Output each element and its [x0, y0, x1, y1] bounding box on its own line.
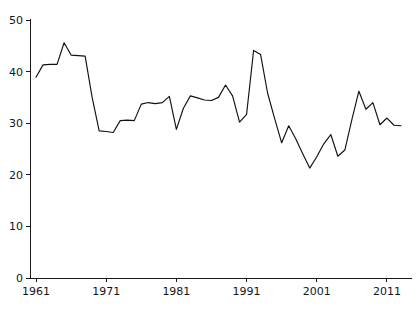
- data-series-group: [36, 43, 401, 168]
- axes-group: [30, 19, 412, 278]
- y-tick-label-50: 50: [9, 14, 23, 27]
- x-tick-label-1991: 1991: [233, 285, 261, 298]
- x-tick-label-2001: 2001: [303, 285, 331, 298]
- y-tick-label-30: 30: [9, 117, 23, 130]
- x-tick-label-1971: 1971: [92, 285, 120, 298]
- y-tick-label-10: 10: [9, 220, 23, 233]
- line-chart: 01020304050196119711981199120012011: [0, 0, 418, 316]
- series-line-1: [36, 43, 401, 168]
- chart-container: 01020304050196119711981199120012011: [0, 0, 418, 316]
- x-tick-label-2011: 2011: [373, 285, 401, 298]
- x-tick-label-1981: 1981: [162, 285, 190, 298]
- ticks-group: [26, 20, 387, 282]
- x-tick-label-1961: 1961: [22, 285, 50, 298]
- y-tick-label-0: 0: [16, 272, 23, 285]
- y-tick-label-20: 20: [9, 169, 23, 182]
- y-tick-label-40: 40: [9, 66, 23, 79]
- tick-labels-group: 01020304050196119711981199120012011: [9, 14, 401, 298]
